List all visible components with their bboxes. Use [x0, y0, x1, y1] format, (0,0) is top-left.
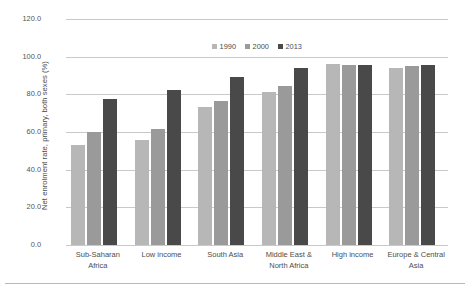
y-axis-tick-label: 120.0	[1, 15, 41, 22]
bar	[87, 132, 101, 245]
bar	[326, 64, 340, 245]
bottom-divider	[5, 283, 465, 284]
legend-label: 1990	[220, 42, 236, 51]
x-axis-tick-label: High income	[321, 250, 385, 261]
y-axis-tick-label: 40.0	[1, 166, 41, 173]
y-axis-tick-label: 80.0	[1, 90, 41, 97]
x-axis-tick-label: Europe & CentralAsia	[384, 250, 448, 271]
x-axis-tick-label-line: Sub-Saharan	[66, 250, 130, 261]
chart-legend: 199020002013	[66, 42, 448, 51]
bar	[262, 92, 276, 245]
bar-group	[384, 19, 448, 245]
x-axis-tick-label: Low income	[130, 250, 194, 261]
x-axis-tick-label-line: North Africa	[257, 261, 321, 272]
bar	[151, 129, 165, 245]
x-axis-tick-label-line: Low income	[130, 250, 194, 261]
bar-group	[66, 19, 130, 245]
x-axis-tick-label-line: Europe & Central	[384, 250, 448, 261]
legend-swatch-icon	[245, 44, 250, 49]
x-axis-tick-label: Middle East &North Africa	[257, 250, 321, 271]
x-axis-tick-label-line: Asia	[384, 261, 448, 272]
bar	[294, 68, 308, 245]
legend-item[interactable]: 2000	[245, 42, 269, 51]
bar	[358, 65, 372, 245]
legend-item[interactable]: 1990	[212, 42, 236, 51]
bar	[342, 65, 356, 245]
bar-group	[193, 19, 257, 245]
bar	[135, 140, 149, 245]
bar-group	[130, 19, 194, 245]
bar	[230, 77, 244, 245]
x-axis-tick-label-line: South Asia	[193, 250, 257, 261]
y-axis-tick-label: 0.0	[1, 241, 41, 248]
legend-label: 2000	[253, 42, 269, 51]
x-axis-tick-label: Sub-SaharanAfrica	[66, 250, 130, 271]
x-axis-tick-label-line: Middle East &	[257, 250, 321, 261]
bar	[278, 86, 292, 245]
y-axis-tick-label: 60.0	[1, 128, 41, 135]
bar	[421, 65, 435, 245]
x-axis-tick-label-line: Africa	[66, 261, 130, 272]
bar	[71, 145, 85, 245]
bar	[214, 101, 228, 245]
legend-swatch-icon	[278, 44, 283, 49]
plot-area: 0.020.040.060.080.0100.0120.0 1990200020…	[66, 19, 448, 245]
bar-group	[257, 19, 321, 245]
bar	[198, 107, 212, 245]
gridline	[66, 245, 448, 246]
bars-layer	[66, 19, 448, 245]
legend-label: 2013	[285, 42, 301, 51]
bar	[405, 66, 419, 245]
x-axis-tick-label-line: High income	[321, 250, 385, 261]
bar	[103, 99, 117, 245]
bar-chart: Net enrolment rate, primary, both sexes …	[0, 0, 470, 299]
legend-item[interactable]: 2013	[278, 42, 302, 51]
legend-swatch-icon	[212, 44, 217, 49]
x-axis-tick-label: South Asia	[193, 250, 257, 261]
y-axis-tick-label: 20.0	[1, 203, 41, 210]
x-axis-tick-labels: Sub-SaharanAfricaLow incomeSouth AsiaMid…	[66, 250, 448, 284]
y-axis-tick-label: 100.0	[1, 53, 41, 60]
bar	[167, 90, 181, 245]
bar-group	[321, 19, 385, 245]
bar	[389, 68, 403, 245]
